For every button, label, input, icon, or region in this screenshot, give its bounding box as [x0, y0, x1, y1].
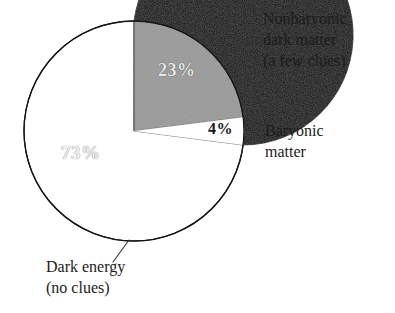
callout-label-nonbaryonic-dark-matter: Nonbaryonic dark matter (a few clues)	[263, 8, 347, 71]
callout-line-1: Baryonic	[265, 120, 324, 141]
callout-line-2: matter	[265, 141, 324, 162]
callout-line-1: Nonbaryonic	[263, 8, 347, 29]
pie-chart-figure: 23% 4% 73% Nonbaryonic dark matter (a fe…	[0, 0, 395, 313]
callout-label-dark-energy: Dark energy (no clues)	[46, 256, 125, 298]
slice-value-dark-energy: 73%	[61, 142, 101, 164]
slice-value-nonbaryonic-dark-matter: 23%	[158, 60, 196, 81]
callout-line-2: dark matter	[263, 29, 347, 50]
callout-line-1: Dark energy	[46, 256, 125, 277]
callout-line-2: (no clues)	[46, 277, 125, 298]
callout-line-3: (a few clues)	[263, 50, 347, 71]
slice-value-baryonic-matter: 4%	[208, 120, 233, 138]
callout-label-baryonic-matter: Baryonic matter	[265, 120, 324, 162]
